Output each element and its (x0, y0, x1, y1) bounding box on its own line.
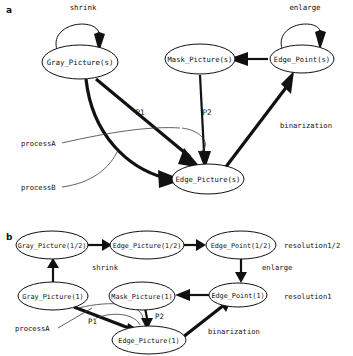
edge-label-enlarge-a: enlarge (289, 3, 321, 12)
edge-label-shrink-b: shrink (92, 263, 119, 272)
edge-gray1-to-grayhalf-shrink-b (47, 258, 59, 282)
node-label-edge-point-1: Edge_Point(1) (211, 292, 264, 300)
panel-b: b (6, 231, 340, 354)
node-label-gray-picture-s: Gray_Picture(s) (47, 58, 114, 67)
node-gray-picture-half[interactable]: Gray_Picture(1/2) (16, 231, 88, 259)
node-edge-picture-1[interactable]: Edge_Picture(1) (112, 326, 186, 354)
edge-label-p2-b: P2 (155, 312, 164, 321)
node-gray-picture-1[interactable]: Gray_Picture(1) (18, 282, 88, 310)
node-mask-picture-1[interactable]: Mask_Picture(1) (109, 282, 175, 310)
edge-label-processa-b: processA (15, 324, 50, 333)
edge-edgehalf-to-pointhalf-b (184, 239, 206, 251)
node-label-edge-point-s: Edge_Point(s) (274, 55, 330, 64)
edge-grayhalf-to-edgehalf-b (88, 239, 112, 251)
edge-point1-to-mask1-b (175, 289, 209, 301)
node-label-edge-picture-half: Edge_Picture(1/2) (113, 242, 181, 250)
row-label-resolution-half: resolution1/2 (284, 241, 340, 250)
node-label-gray-picture-1: Gray_Picture(1) (22, 293, 83, 301)
node-label-mask-picture-s: Mask_Picture(s) (168, 55, 233, 64)
node-label-edge-picture-1: Edge_Picture(1) (118, 337, 179, 345)
node-label-mask-picture-1: Mask_Picture(1) (111, 293, 172, 301)
row-label-resolution-one: resolution1 (284, 292, 332, 301)
edge-label-shrink-a: shrink (70, 3, 97, 12)
node-edge-point-1[interactable]: Edge_Point(1) (209, 283, 267, 307)
leader-processb-a (62, 150, 118, 187)
node-gray-picture-s[interactable]: Gray_Picture(s) (42, 45, 118, 79)
node-edge-point-half[interactable]: Edge_Point(1/2) (206, 231, 276, 259)
node-mask-picture-s[interactable]: Mask_Picture(s) (165, 44, 235, 74)
edge-label-processa-a: processA (21, 139, 56, 148)
node-label-edge-picture-s: Edge_Picture(s) (176, 175, 241, 184)
edge-pointhalf-to-point1-enlarge-b (235, 259, 247, 283)
node-edge-picture-s[interactable]: Edge_Picture(s) (172, 164, 244, 194)
edge-label-enlarge-b: enlarge (262, 263, 292, 272)
panel-letter-b: b (6, 232, 13, 242)
node-label-gray-picture-half: Gray_Picture(1/2) (18, 242, 86, 250)
edge-label-binarization-b: binarization (208, 327, 260, 336)
figure-diagram: a (0, 0, 353, 356)
edge-label-binarization-a: binarization (280, 121, 332, 130)
edge-gray-to-edgepicture-p1-a (96, 79, 201, 168)
edge-label-p1-a: P1 (135, 108, 145, 117)
diagram-canvas: a (0, 0, 353, 356)
edge-label-p1-b: P1 (88, 317, 97, 326)
node-edge-point-s[interactable]: Edge_Point(s) (270, 45, 334, 73)
node-edge-picture-half[interactable]: Edge_Picture(1/2) (110, 231, 184, 259)
edge-label-p2-a: P2 (202, 108, 211, 117)
edge-label-processb-a: processB (21, 183, 56, 192)
panel-a: a (6, 3, 334, 194)
node-label-edge-point-half: Edge_Point(1/2) (211, 242, 271, 250)
edge-mask-to-edgepicture-a (198, 75, 211, 169)
panel-letter-a: a (6, 5, 12, 15)
leader-processa-b (58, 308, 92, 328)
